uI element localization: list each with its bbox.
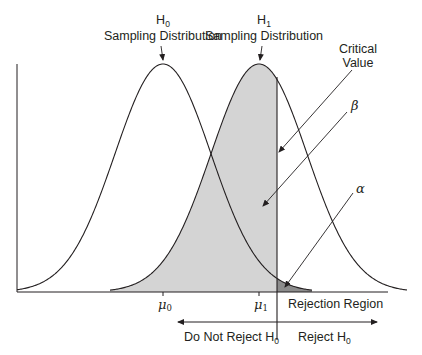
critical-value-label-line1: Critical	[339, 42, 377, 56]
rejection-region-label: Rejection Region	[288, 297, 383, 311]
h1-pointer-arrow	[260, 46, 262, 60]
mu1-label: μ1	[254, 297, 268, 313]
do-not-reject-label: Do Not Reject H0	[184, 330, 279, 346]
reject-label: Reject H0	[298, 330, 351, 346]
h1-caption: Sampling Distribution	[205, 29, 323, 43]
beta-label: β	[350, 98, 359, 113]
mu0-label: μ0	[158, 297, 172, 313]
critical-value-label-line2: Value	[342, 56, 373, 70]
h0-pointer-arrow	[161, 46, 163, 60]
alpha-pointer-arrow	[285, 193, 353, 287]
critical-value-pointer-arrow	[279, 70, 352, 152]
h1-label: H1	[257, 13, 271, 29]
alpha-label: α	[356, 181, 365, 196]
hypothesis-test-diagram: H0 Sampling Distribution H1 Sampling Dis…	[0, 0, 422, 355]
h0-label: H0	[156, 13, 170, 29]
